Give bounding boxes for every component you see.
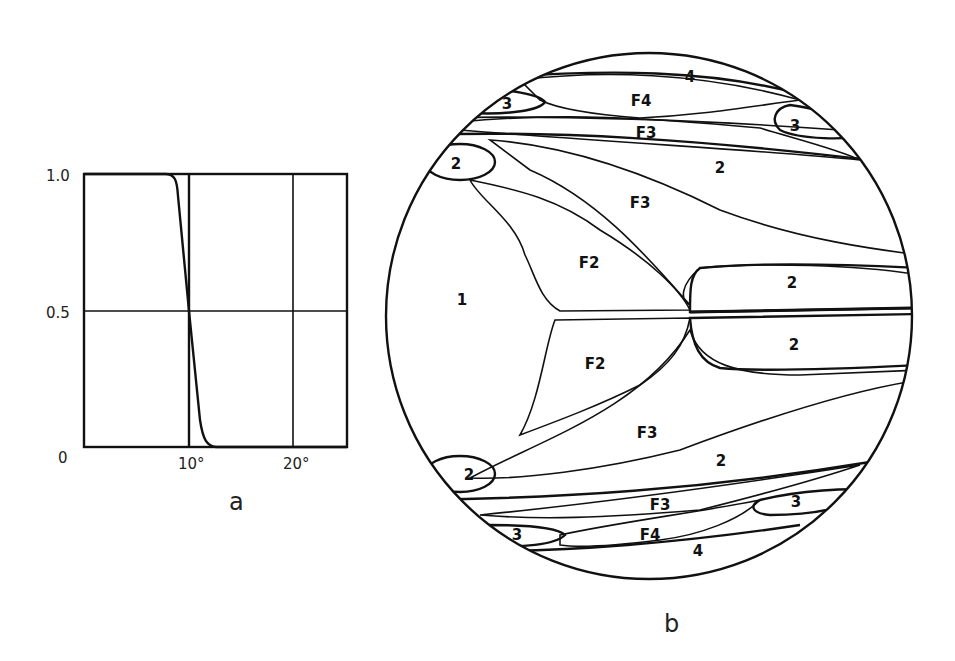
band-line bbox=[420, 462, 870, 500]
label-region-3: 3 bbox=[791, 493, 801, 511]
label-region-f3: F3 bbox=[637, 424, 658, 442]
label-region-1: 1 bbox=[457, 291, 467, 309]
label-region-2: 2 bbox=[789, 336, 799, 354]
region-3-upper-right-shape bbox=[775, 105, 860, 138]
y-tick-half: 0.5 bbox=[46, 304, 70, 322]
region-3-lower-right-shape bbox=[753, 489, 870, 515]
region-f3-lower-main bbox=[470, 330, 920, 478]
label-region-f2: F2 bbox=[579, 254, 600, 272]
panel-a-label: a bbox=[229, 488, 244, 516]
label-region-f3: F3 bbox=[636, 124, 657, 142]
x-tick-10: 10° bbox=[178, 455, 205, 473]
label-region-f4: F4 bbox=[631, 92, 652, 110]
center-line bbox=[690, 308, 912, 312]
label-region-f2: F2 bbox=[585, 355, 606, 373]
y-tick-0: 0 bbox=[58, 449, 68, 467]
label-region-2: 2 bbox=[715, 159, 725, 177]
panel-a-chart: 1.0 0.5 0 10° 20° a bbox=[46, 167, 347, 516]
label-region-f3: F3 bbox=[650, 496, 671, 514]
region-f3-upper-main bbox=[490, 140, 920, 305]
label-region-3: 3 bbox=[502, 95, 512, 113]
label-region-2: 2 bbox=[464, 466, 474, 484]
label-region-f3: F3 bbox=[630, 194, 651, 212]
panel-b-diagram: 1 2 2 2 2 2 2 3 3 3 3 4 4 F2 F2 F3 F3 F3… bbox=[386, 53, 920, 638]
region-f2-upper bbox=[470, 180, 690, 311]
label-region-3: 3 bbox=[790, 117, 800, 135]
y-tick-1: 1.0 bbox=[46, 167, 70, 185]
label-region-4: 4 bbox=[693, 542, 703, 560]
region-f4-top bbox=[520, 75, 800, 118]
x-tick-20: 20° bbox=[283, 455, 310, 473]
label-region-f4: F4 bbox=[640, 526, 661, 544]
label-region-3: 3 bbox=[512, 526, 522, 544]
label-region-4: 4 bbox=[685, 68, 695, 86]
region-2-lower-left-shape bbox=[425, 456, 495, 492]
label-region-2: 2 bbox=[451, 155, 461, 173]
region-3-lower-left-shape bbox=[490, 525, 565, 546]
figure: 1.0 0.5 0 10° 20° a bbox=[0, 0, 955, 661]
region-2-upper-right-shape bbox=[690, 265, 920, 312]
label-region-2: 2 bbox=[787, 274, 797, 292]
region-2-lower-right-shape bbox=[690, 314, 920, 370]
panel-b-label: b bbox=[664, 610, 679, 638]
label-region-2: 2 bbox=[716, 452, 726, 470]
region-f2-lower bbox=[520, 318, 690, 435]
